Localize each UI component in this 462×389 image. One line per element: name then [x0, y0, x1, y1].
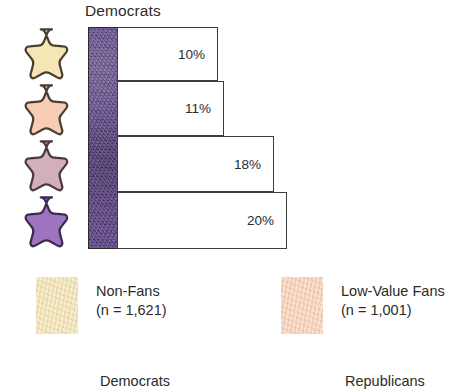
bar-high-value-fans: 20% [117, 192, 287, 249]
legend-swatch-low-value-fans [281, 277, 323, 334]
star-high-value-fans-icon [22, 193, 82, 249]
chart-legend: Non-Fans (n = 1,621) Low-Value Fans (n =… [0, 277, 462, 389]
bar-value-label: 10% [178, 47, 217, 62]
category-label-republicans: Republicans [345, 373, 425, 389]
plot-area: 10% 11% 18% 20% [88, 27, 263, 249]
bar-mid-value-fans: 18% [117, 136, 274, 192]
star-legend-column [22, 25, 84, 249]
bar-low-value-fans: 11% [117, 81, 224, 136]
legend-name: Low-Value Fans [341, 283, 445, 299]
bar-non-fans: 10% [117, 27, 218, 81]
category-label-democrats: Democrats [100, 373, 170, 389]
bar-value-label: 18% [234, 157, 273, 172]
axis-spine-band [88, 27, 118, 249]
legend-count: (n = 1,621) [96, 301, 167, 320]
star-mid-value-fans-icon [22, 137, 82, 193]
legend-label-non-fans: Non-Fans (n = 1,621) [96, 282, 167, 320]
star-non-fans-icon [22, 25, 82, 81]
bar-value-label: 20% [247, 213, 286, 228]
chart-figure: Democrats 10% [0, 0, 462, 389]
bar-value-label: 11% [185, 101, 223, 116]
legend-name: Non-Fans [96, 283, 160, 299]
legend-count: (n = 1,001) [341, 301, 445, 320]
legend-item-non-fans: Non-Fans (n = 1,621) [36, 277, 246, 337]
legend-label-low-value-fans: Low-Value Fans (n = 1,001) [341, 282, 445, 320]
legend-swatch-non-fans [36, 277, 78, 334]
legend-item-low-value-fans: Low-Value Fans (n = 1,001) [281, 277, 462, 337]
chart-title: Democrats [85, 2, 161, 20]
star-low-value-fans-icon [22, 81, 82, 137]
